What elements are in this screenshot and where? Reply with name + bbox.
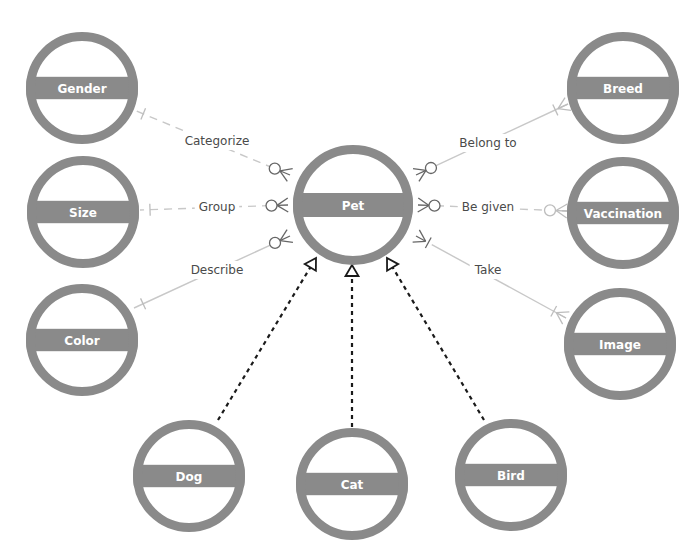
entity-gender[interactable]: Gender [26,37,138,140]
crows-foot-icon-pet-breed [413,169,426,182]
relationship-label: Take [474,263,502,277]
relationship-label-group-color: Describe [187,261,248,279]
optional-circle-icon-pet-gender [269,163,280,174]
crows-foot-icon-pet-gender [280,169,293,182]
relationship-label-group-size: Group [195,198,240,216]
mandatory-bar-icon-pet-image [425,237,431,248]
relationship-label-group-breed: Belong to [455,134,520,152]
optional-circle-icon-vaccination [545,205,556,216]
entity-label: Breed [603,82,643,96]
crows-foot-icon-image [556,312,569,324]
optional-circle-icon-pet-vaccination [429,200,440,211]
optional-circle-icon-pet-color [270,237,281,248]
generalization-arrow-cat [346,265,359,276]
er-diagram: PetGenderSizeColorBreedVaccinationImageD… [0,0,697,559]
relationship-label: Describe [191,263,244,277]
one-bar-icon-breed [553,104,558,115]
entity-size[interactable]: Size [27,161,139,264]
relationship-label: Belong to [459,136,516,150]
relationship-label: Categorize [185,134,250,148]
entity-pet[interactable]: Pet [293,150,413,261]
relationship-line-image [432,245,566,318]
relationship-label-group-image: Take [470,261,506,279]
entity-label: Image [599,338,641,352]
relationship-label-group-vaccination: Be given [458,198,518,216]
entity-cat[interactable]: Cat [296,433,408,536]
entity-vaccination[interactable]: Vaccination [567,162,679,265]
entity-label: Color [64,334,99,348]
entity-label: Size [69,206,97,220]
entity-label: Pet [342,199,365,213]
entity-label: Bird [497,469,525,483]
entity-label: Vaccination [584,207,662,221]
entity-image[interactable]: Image [564,293,676,396]
crows-foot-icon-pet-image [413,230,426,242]
one-bar-icon-color [141,298,146,309]
entity-breed[interactable]: Breed [567,37,679,140]
generalization-line-bird [393,267,484,420]
crows-foot-icon-vaccination [556,204,567,218]
one-bar-icon-image [551,306,557,317]
optional-circle-icon-pet-size [266,200,277,211]
crows-foot-icon-pet-vaccination [418,198,429,212]
relationship-label: Group [199,200,236,214]
entity-label: Cat [341,478,364,492]
entity-label: Gender [57,82,106,96]
entity-layer: PetGenderSizeColorBreedVaccinationImageD… [26,37,679,536]
entity-color[interactable]: Color [26,289,138,392]
optional-circle-icon-pet-breed [425,163,436,174]
relationship-label: Be given [462,200,514,214]
crows-foot-icon-pet-size [277,198,288,212]
generalization-line-dog [218,267,310,420]
generalization-layer [218,258,484,427]
relationship-label-group-gender: Categorize [181,132,254,150]
entity-label: Dog [176,470,203,484]
entity-bird[interactable]: Bird [455,424,567,527]
entity-dog[interactable]: Dog [133,425,245,528]
crows-foot-icon-pet-color [280,230,293,243]
